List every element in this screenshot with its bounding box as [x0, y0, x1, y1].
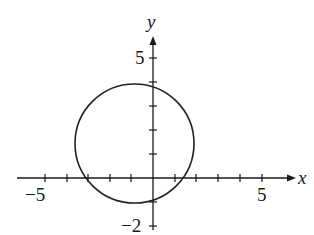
- x-tick-label-neg5: −5: [25, 184, 45, 205]
- x-tick-label-5: 5: [257, 184, 267, 205]
- y-axis-label: y: [145, 11, 156, 32]
- circle-curve: [75, 84, 194, 203]
- coordinate-plane: x y −5 5 5 −2: [0, 0, 314, 235]
- y-axis-arrow-icon: [150, 36, 157, 45]
- y-tick-label-neg2: −2: [121, 215, 141, 235]
- y-tick-label-5: 5: [135, 47, 145, 68]
- x-axis-arrow-icon: [287, 175, 296, 182]
- x-axis-label: x: [297, 167, 307, 188]
